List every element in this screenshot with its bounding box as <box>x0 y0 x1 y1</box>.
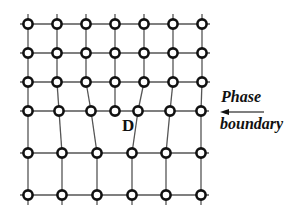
atom-icon <box>127 190 136 199</box>
atom-icon <box>127 148 136 157</box>
atom-icon <box>81 48 90 57</box>
vertical-bond <box>166 111 170 153</box>
atom-icon <box>161 190 170 199</box>
atom-icon <box>133 106 142 115</box>
atom-icon <box>52 77 61 86</box>
atom-icon <box>161 148 170 157</box>
phase-boundary-label-line2: boundary <box>220 115 283 133</box>
atom-icon <box>23 190 32 199</box>
atom-icon <box>23 48 32 57</box>
atom-icon <box>139 77 148 86</box>
atom-icon <box>197 48 206 57</box>
atom-icon <box>54 106 63 115</box>
atom-icon <box>92 190 101 199</box>
atom-icon <box>110 48 119 57</box>
atom-icon <box>196 106 205 115</box>
atom-icon <box>81 19 90 28</box>
atom-icon <box>86 106 95 115</box>
atom-icon <box>197 19 206 28</box>
vertical-bond <box>91 111 97 153</box>
atom-icon <box>197 77 206 86</box>
atom-icon <box>81 77 90 86</box>
atom-icon <box>52 19 61 28</box>
atom-icon <box>110 19 119 28</box>
atom-icon <box>110 77 119 86</box>
atom-icon <box>196 148 205 157</box>
atom-icon <box>139 48 148 57</box>
atom-icon <box>23 106 32 115</box>
atom-icon <box>52 48 61 57</box>
atom-icon <box>23 19 32 28</box>
atom-icon <box>92 148 101 157</box>
atom-icon <box>23 148 32 157</box>
atom-icon <box>165 106 174 115</box>
phase-boundary-label-line1: Phase <box>221 88 261 106</box>
atom-icon <box>168 48 177 57</box>
atom-icon <box>57 148 66 157</box>
atom-icon <box>168 77 177 86</box>
atom-icon <box>110 106 119 115</box>
atom-icon <box>23 77 32 86</box>
atom-icon <box>139 19 148 28</box>
atom-icon <box>57 190 66 199</box>
vertical-bond <box>59 111 62 153</box>
atom-icon <box>168 19 177 28</box>
lattice-diagram: D Phase boundary <box>0 0 297 216</box>
lattice-svg <box>0 0 297 216</box>
dislocation-label: D <box>122 116 134 136</box>
atom-icon <box>196 190 205 199</box>
